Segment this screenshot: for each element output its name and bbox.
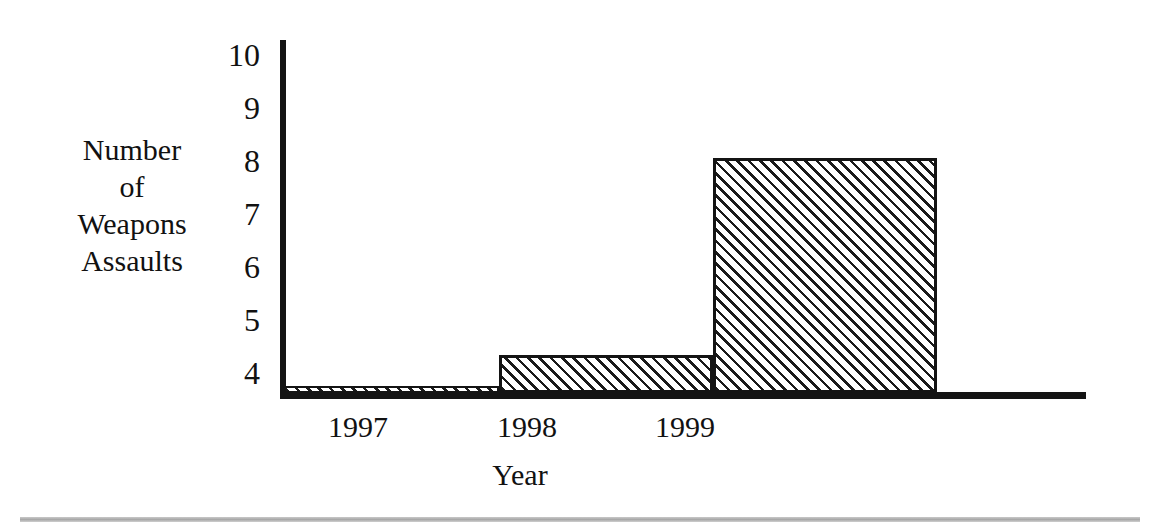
bar-1997[interactable] [284, 386, 499, 393]
bar-1998[interactable] [499, 355, 713, 393]
y-tick-label-10: 10 [200, 39, 260, 71]
y-tick-label-9: 9 [200, 92, 260, 124]
x-axis-title: Year [420, 460, 620, 490]
y-tick-label-5: 5 [200, 304, 260, 336]
bar-1999[interactable] [713, 158, 937, 393]
footer-divider [20, 517, 1140, 522]
x-tick-label-1999: 1999 [605, 412, 765, 442]
y-tick-label-6: 6 [200, 251, 260, 283]
x-tick-label-1998: 1998 [447, 412, 607, 442]
y-tick-label-7: 7 [200, 198, 260, 230]
y-axis-title: Number of Weapons Assaults [42, 131, 222, 279]
y-tick-label-4: 4 [200, 357, 260, 389]
x-tick-label-1997: 1997 [278, 412, 438, 442]
y-tick-label-8: 8 [200, 145, 260, 177]
y-axis-line [280, 40, 286, 396]
bar-chart-figure: Number of Weapons Assaults 10 9 8 7 6 5 … [0, 0, 1155, 530]
x-axis-line [280, 392, 1086, 399]
